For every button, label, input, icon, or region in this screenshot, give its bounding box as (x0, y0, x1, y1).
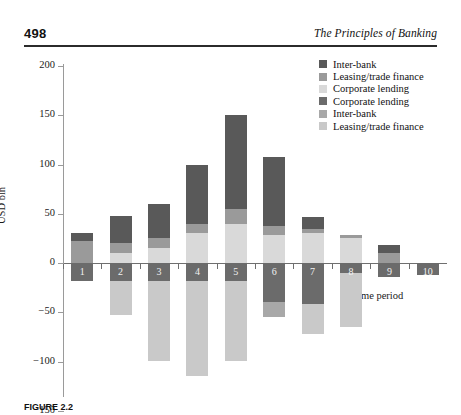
running-head: 498 The Principles of Banking (0, 14, 461, 44)
y-tick (58, 312, 64, 313)
x-tick-label: 5 (225, 266, 247, 277)
bar-segment (71, 241, 93, 263)
x-tick (293, 264, 294, 269)
x-tick (63, 264, 64, 269)
table-row (110, 216, 132, 263)
table-row (340, 235, 362, 263)
bar-segment (186, 233, 208, 263)
table-row (186, 263, 208, 376)
y-axis-labels: 200150100500−50−100−150 (0, 46, 55, 396)
legend-item: Inter-bank (319, 108, 424, 120)
bar-segment (186, 165, 208, 224)
bar-segment (340, 238, 362, 263)
bar-segment (225, 115, 247, 209)
bar-segment (186, 281, 208, 377)
table-row (225, 263, 247, 362)
book-title: The Principles of Banking (314, 27, 437, 39)
x-tick (140, 264, 141, 269)
bar-segment (378, 253, 400, 263)
y-tick (58, 165, 64, 166)
y-tick-label: −100 (3, 355, 55, 366)
legend-swatch-icon (319, 73, 327, 81)
bar-segment (263, 302, 285, 317)
bar-segment (110, 281, 132, 315)
table-row (378, 245, 400, 263)
table-row (302, 217, 324, 263)
table-row (71, 233, 93, 263)
bar-segment (263, 235, 285, 263)
table-row (186, 165, 208, 264)
legend-swatch-icon (319, 97, 327, 105)
table-row (148, 204, 170, 263)
y-tick-label: 0 (3, 256, 55, 267)
table-row (148, 263, 170, 362)
bar-segment (71, 233, 93, 241)
bar-segment (263, 226, 285, 236)
y-tick-label: −50 (3, 305, 55, 316)
x-tick-label: 9 (378, 266, 400, 277)
bar-segment (148, 238, 170, 248)
y-tick (58, 214, 64, 215)
chart-legend: Inter-bankLeasing/trade financeCorporate… (319, 58, 424, 132)
y-tick-label: 50 (3, 207, 55, 218)
legend-item: Leasing/trade finance (319, 70, 424, 82)
x-tick-label: 6 (263, 266, 285, 277)
figure-caption: FIGURE 2.2 (24, 402, 73, 411)
bar-segment (302, 217, 324, 229)
chart-figure: 200150100500−50−100−150 USD bln Time per… (0, 46, 461, 396)
y-tick-label: 200 (3, 59, 55, 70)
x-tick-label: 10 (417, 266, 439, 277)
legend-label: Inter-bank (333, 108, 377, 119)
legend-item: Corporate lending (319, 83, 424, 95)
x-tick (370, 264, 371, 269)
x-tick (255, 264, 256, 269)
legend-label: Corporate lending (333, 83, 409, 94)
bar-segment (263, 157, 285, 226)
table-row (263, 157, 285, 263)
x-tick-label: 3 (148, 266, 170, 277)
bar-segment (186, 224, 208, 234)
bar-segment (340, 273, 362, 327)
bar-segment (110, 253, 132, 263)
x-tick (332, 264, 333, 269)
legend-label: Inter-bank (333, 59, 377, 70)
legend-item: Inter-bank (319, 58, 424, 70)
bar-segment (225, 209, 247, 224)
bar-segment (225, 224, 247, 263)
y-tick (58, 115, 64, 116)
x-tick (409, 264, 410, 269)
bar-segment (225, 281, 247, 362)
bar-segment (148, 281, 170, 362)
bar-segment (110, 243, 132, 253)
legend-item: Corporate lending (319, 95, 424, 107)
legend-swatch-icon (319, 85, 327, 93)
legend-label: Leasing/trade finance (333, 71, 424, 82)
bar-segment (110, 216, 132, 244)
legend-label: Leasing/trade finance (333, 121, 424, 132)
x-tick (101, 264, 102, 269)
legend-label: Corporate lending (333, 96, 409, 107)
x-tick-label: 1 (71, 266, 93, 277)
bar-segment (148, 204, 170, 238)
x-tick (178, 264, 179, 269)
y-tick-label: 100 (3, 158, 55, 169)
table-row (225, 115, 247, 263)
legend-swatch-icon (319, 60, 327, 68)
page-number: 498 (24, 26, 47, 41)
legend-swatch-icon (319, 110, 327, 118)
y-tick (58, 66, 64, 67)
x-tick-label: 2 (110, 266, 132, 277)
bar-segment (302, 233, 324, 263)
legend-item: Leasing/trade finance (319, 120, 424, 132)
x-tick-label: 8 (340, 266, 362, 277)
y-tick (58, 362, 64, 363)
x-tick (217, 264, 218, 269)
bar-segment (302, 304, 324, 334)
x-tick-label: 4 (186, 266, 208, 277)
y-axis-title: USD bln (0, 187, 7, 224)
y-tick-label: 150 (3, 108, 55, 119)
bar-segment (378, 245, 400, 253)
x-tick-label: 7 (302, 266, 324, 277)
bar-segment (148, 248, 170, 263)
